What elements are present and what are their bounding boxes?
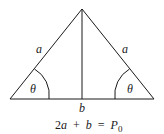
eq-equals: = xyxy=(98,118,105,132)
left-angle-arc xyxy=(35,69,50,99)
left-side-label: a xyxy=(36,42,42,56)
right-side-label: a xyxy=(122,42,128,56)
triangle-diagram: a a θ θ b 2a + b = P0 xyxy=(0,0,164,134)
eq-subscript: 0 xyxy=(118,124,123,134)
right-angle-label: θ xyxy=(127,82,133,96)
eq-var-b: b xyxy=(86,118,92,132)
eq-var-a: a xyxy=(61,118,67,132)
perimeter-equation: 2a + b = P0 xyxy=(55,118,123,134)
base-label: b xyxy=(79,101,85,115)
left-angle-label: θ xyxy=(30,82,36,96)
eq-plus: + xyxy=(73,118,80,132)
